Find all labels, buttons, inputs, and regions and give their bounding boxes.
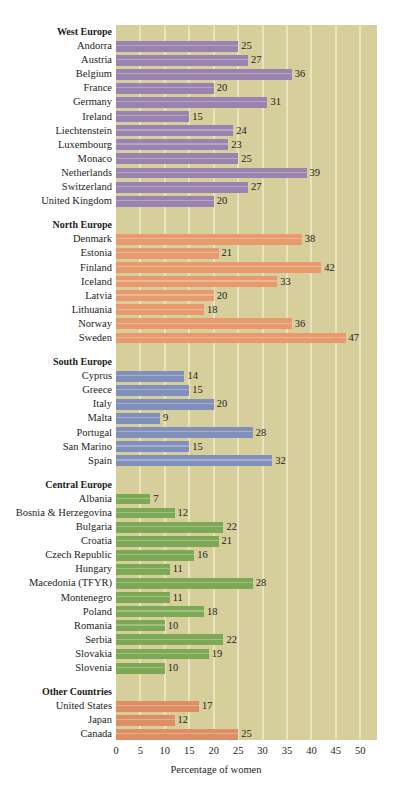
bar-container: 25 xyxy=(116,727,400,741)
country-label: Slovakia xyxy=(75,647,112,661)
x-tick-label: 30 xyxy=(257,744,268,758)
bar-chart: West EuropeAndorra25Austria27Belgium36Fr… xyxy=(0,0,400,791)
bar xyxy=(116,318,292,329)
country-label: Slovenia xyxy=(75,661,112,675)
bar-value-label: 15 xyxy=(189,383,203,397)
bar xyxy=(116,83,214,94)
bar xyxy=(116,304,204,315)
bar-row: Netherlands39 xyxy=(0,166,400,180)
bar xyxy=(116,550,194,561)
bar-row: Latvia20 xyxy=(0,289,400,303)
x-tick-label: 25 xyxy=(233,744,244,758)
bar-value-label: 38 xyxy=(302,232,316,246)
bar-value-label: 28 xyxy=(253,576,267,590)
bar-container: 39 xyxy=(116,166,400,180)
bar-row: Slovenia10 xyxy=(0,661,400,675)
country-label: Liechtenstein xyxy=(55,124,112,138)
bar xyxy=(116,276,277,287)
chart-rows: West EuropeAndorra25Austria27Belgium36Fr… xyxy=(0,25,400,742)
country-label: Belgium xyxy=(76,67,112,81)
country-label: Finland xyxy=(80,261,112,275)
bar-row: United States17 xyxy=(0,699,400,713)
group-header-row: Central Europe xyxy=(0,478,400,492)
bar-value-label: 21 xyxy=(219,534,233,548)
bar-value-label: 25 xyxy=(238,39,252,53)
bar-value-label: 20 xyxy=(214,81,228,95)
bar-value-label: 11 xyxy=(170,591,183,605)
bar-row: Germany31 xyxy=(0,95,400,109)
bar-row: Japan12 xyxy=(0,713,400,727)
group-label: Central Europe xyxy=(45,478,112,492)
bar-container: 15 xyxy=(116,383,400,397)
country-label: Cyprus xyxy=(82,369,112,383)
bar-container: 20 xyxy=(116,194,400,208)
bar xyxy=(116,182,248,193)
bar xyxy=(116,578,253,589)
group-spacer xyxy=(0,675,400,685)
bar xyxy=(116,248,219,259)
bar-row: Spain32 xyxy=(0,454,400,468)
bar xyxy=(116,522,223,533)
bar-row: Bulgaria22 xyxy=(0,520,400,534)
bar-row: Italy20 xyxy=(0,397,400,411)
country-label: Czech Republic xyxy=(45,548,112,562)
x-tick-label: 0 xyxy=(113,744,118,758)
country-label: Portugal xyxy=(76,426,112,440)
group-spacer xyxy=(0,468,400,478)
bar-container: 28 xyxy=(116,576,400,590)
bar xyxy=(116,715,175,726)
bar-row: Cyprus14 xyxy=(0,369,400,383)
country-label: Germany xyxy=(73,95,112,109)
country-label: Croatia xyxy=(81,534,112,548)
bar-value-label: 25 xyxy=(238,727,252,741)
bar xyxy=(116,371,184,382)
x-tick-label: 35 xyxy=(282,744,293,758)
group-header-row: Other Countries xyxy=(0,685,400,699)
bar xyxy=(116,413,160,424)
bar xyxy=(116,592,170,603)
bar-row: Ireland15 xyxy=(0,110,400,124)
bar xyxy=(116,111,189,122)
bar-row: Monaco25 xyxy=(0,152,400,166)
country-label: United States xyxy=(56,699,112,713)
bar-row: Luxembourg23 xyxy=(0,138,400,152)
bar-container: 11 xyxy=(116,562,400,576)
bar-row: Estonia21 xyxy=(0,246,400,260)
bar-container: 23 xyxy=(116,138,400,152)
country-label: Albania xyxy=(79,492,112,506)
bar-value-label: 39 xyxy=(307,166,321,180)
x-axis-title-label: Percentage of women xyxy=(171,764,262,775)
bar-value-label: 10 xyxy=(165,619,179,633)
country-label: Romania xyxy=(74,619,112,633)
bar-value-label: 25 xyxy=(238,152,252,166)
bar-container: 21 xyxy=(116,246,400,260)
bar-container: 9 xyxy=(116,411,400,425)
bar-value-label: 24 xyxy=(233,124,247,138)
bar-value-label: 7 xyxy=(150,492,158,506)
bar-value-label: 14 xyxy=(184,369,198,383)
bar-row: Austria27 xyxy=(0,53,400,67)
bar-container: 27 xyxy=(116,180,400,194)
bar-container: 28 xyxy=(116,426,400,440)
country-label: Switzerland xyxy=(62,180,112,194)
country-label: Estonia xyxy=(81,246,113,260)
bar-value-label: 20 xyxy=(214,397,228,411)
bar-container: 22 xyxy=(116,520,400,534)
bar xyxy=(116,168,307,179)
bar-value-label: 16 xyxy=(194,548,208,562)
bar-row: Belgium36 xyxy=(0,67,400,81)
bar-value-label: 9 xyxy=(160,411,168,425)
bar-container: 32 xyxy=(116,454,400,468)
country-label: Canada xyxy=(81,727,113,741)
bar-value-label: 27 xyxy=(248,53,262,67)
bar-value-label: 12 xyxy=(175,506,189,520)
bar-container: 20 xyxy=(116,289,400,303)
bar xyxy=(116,333,346,344)
group-header-row: West Europe xyxy=(0,25,400,39)
bar xyxy=(116,125,233,136)
bar-row: Finland42 xyxy=(0,261,400,275)
bar-container: 47 xyxy=(116,331,400,345)
country-label: Austria xyxy=(81,53,112,67)
bar xyxy=(116,729,238,740)
bar-container: 12 xyxy=(116,713,400,727)
